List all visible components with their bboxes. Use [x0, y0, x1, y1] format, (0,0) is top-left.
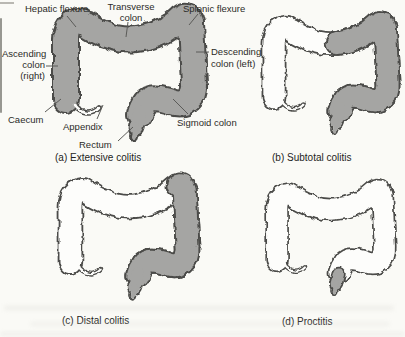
scan-bleedthrough — [0, 332, 405, 336]
scan-artifact-top — [0, 2, 14, 4]
scan-bleedthrough — [30, 322, 390, 326]
caption-panel-b-subtotal-colitis: (b) Subtotal colitis — [272, 152, 351, 163]
caption-panel-a-extensive-colitis: (a) Extensive colitis — [55, 152, 141, 163]
colon-diagram-proctitis — [262, 178, 400, 306]
label-hepatic-flexure: Hepatic flexure — [25, 3, 88, 14]
label-ascending-colon: Ascending colon (right) — [2, 48, 45, 81]
label-sigmoid-colon: Sigmoid colon — [177, 117, 237, 128]
label-descending-colon: Descending colon (left) — [211, 46, 261, 70]
scan-page-edge — [0, 18, 2, 113]
label-rectum: Rectum — [79, 139, 112, 150]
colon-diagram-subtotal-colitis — [258, 14, 404, 142]
scan-bleedthrough — [4, 306, 394, 310]
label-appendix: Appendix — [63, 121, 103, 132]
colon-diagram-distal-colitis — [54, 176, 204, 308]
label-caecum: Caecum — [8, 114, 43, 125]
label-splenic-flexure: Splenic flexure — [183, 3, 245, 14]
label-transverse-colon: Transverse colon — [104, 2, 158, 23]
figure-canvas: Hepatic flexure Transverse colon Splenic… — [0, 0, 405, 337]
